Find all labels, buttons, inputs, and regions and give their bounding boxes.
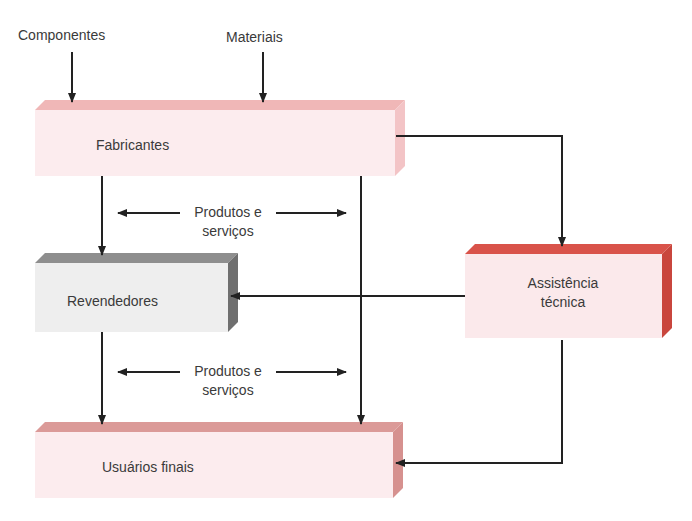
- manufacturers-label: Fabricantes: [96, 136, 216, 155]
- resellers-label: Revendedores: [67, 292, 187, 311]
- diagram-canvas: [0, 0, 692, 521]
- flow-label-lower-line2: serviços: [180, 381, 276, 400]
- input-label-materials: Materiais: [226, 28, 306, 47]
- flow-label-lower: Produtos e serviços: [180, 362, 276, 400]
- tech-support-label-line2: técnica: [513, 293, 613, 312]
- end-users-label: Usuários finais: [102, 458, 242, 477]
- flow-label-upper: Produtos e serviços: [180, 203, 276, 241]
- flow-label-upper-line1: Produtos e: [180, 203, 276, 222]
- tech-support-label-line1: Assistência: [513, 274, 613, 293]
- input-label-components: Componentes: [18, 26, 128, 45]
- flow-label-lower-line1: Produtos e: [180, 362, 276, 381]
- tech-support-label: Assistência técnica: [513, 274, 613, 312]
- manufacturers-box: [35, 100, 405, 176]
- flow-label-upper-line2: serviços: [180, 222, 276, 241]
